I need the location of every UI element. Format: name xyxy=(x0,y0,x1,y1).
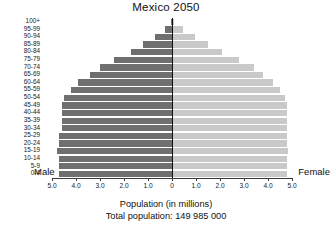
pyramid-row: 70-74 xyxy=(0,64,332,72)
x-axis-tick xyxy=(76,178,77,181)
male-bar xyxy=(62,102,172,108)
x-axis: 5.04.03.02.01.001.02.03.04.05.0 xyxy=(0,178,332,198)
x-axis-tick-label: 5.0 xyxy=(47,182,56,189)
male-bar xyxy=(59,163,172,169)
x-axis-tick xyxy=(172,178,173,181)
female-bar xyxy=(172,41,208,47)
x-axis-tick-label: 3.0 xyxy=(239,182,248,189)
x-axis-tick-label: 1.0 xyxy=(143,182,152,189)
pyramid-row: 55-59 xyxy=(0,86,332,94)
pyramid-row: 50-54 xyxy=(0,94,332,102)
male-bar xyxy=(78,79,172,85)
female-bar xyxy=(172,102,287,108)
pyramid-row: 90-94 xyxy=(0,33,332,41)
male-bar xyxy=(59,133,172,139)
pyramid-row: 95-99 xyxy=(0,26,332,34)
female-bar xyxy=(172,148,288,154)
pyramid-row: 75-79 xyxy=(0,56,332,64)
chart-title: Mexico 2050 xyxy=(0,1,332,13)
pyramid-row: 65-69 xyxy=(0,71,332,79)
x-axis-tick xyxy=(52,178,53,181)
pyramid-row: 85-89 xyxy=(0,41,332,49)
male-bar xyxy=(59,171,172,177)
female-bar xyxy=(172,87,280,93)
pyramid-row: 45-49 xyxy=(0,102,332,110)
female-bar xyxy=(172,140,287,146)
female-bar xyxy=(172,26,183,32)
population-pyramid-chart: Mexico 2050 100+95-9990-9485-8980-8475-7… xyxy=(0,0,332,233)
male-bar xyxy=(71,87,172,93)
female-bar xyxy=(172,72,263,78)
male-bar xyxy=(131,49,172,55)
female-bar xyxy=(172,118,287,124)
x-axis-tick xyxy=(244,178,245,181)
pyramid-row: 30-34 xyxy=(0,125,332,133)
female-bar xyxy=(172,34,195,40)
x-axis-tick xyxy=(100,178,101,181)
female-bar xyxy=(172,171,287,177)
x-axis-tick-label: 1.0 xyxy=(191,182,200,189)
female-bar xyxy=(172,110,287,116)
male-bar xyxy=(100,64,172,70)
x-axis-tick-label: 0 xyxy=(170,182,174,189)
plot-area: 100+95-9990-9485-8980-8475-7970-7465-696… xyxy=(0,18,332,178)
female-bar xyxy=(172,49,222,55)
total-population-label: Total population: 149 985 000 xyxy=(0,211,332,223)
female-bar xyxy=(172,163,287,169)
x-axis-tick xyxy=(124,178,125,181)
female-legend-label: Female xyxy=(298,166,330,177)
female-bar xyxy=(172,57,239,63)
x-axis-tick-label: 4.0 xyxy=(263,182,272,189)
female-bar xyxy=(172,156,287,162)
x-axis-tick xyxy=(292,178,293,181)
pyramid-row: 10-14 xyxy=(0,155,332,163)
center-axis-line xyxy=(172,18,173,179)
x-axis-tick xyxy=(220,178,221,181)
pyramid-row: 20-24 xyxy=(0,140,332,148)
pyramid-row: 100+ xyxy=(0,18,332,26)
male-bar xyxy=(59,156,172,162)
pyramid-row: 15-19 xyxy=(0,147,332,155)
male-bar xyxy=(114,57,172,63)
x-axis-tick xyxy=(148,178,149,181)
male-bar xyxy=(57,148,172,154)
chart-footer: Population (in millions) Total populatio… xyxy=(0,199,332,222)
x-axis-tick xyxy=(268,178,269,181)
male-bar xyxy=(62,110,172,116)
male-bar xyxy=(64,95,172,101)
male-bar xyxy=(62,125,172,131)
female-bar xyxy=(172,79,273,85)
pyramid-row: 80-84 xyxy=(0,48,332,56)
pyramid-row: 35-39 xyxy=(0,117,332,125)
x-axis-tick-label: 2.0 xyxy=(215,182,224,189)
male-bar xyxy=(62,118,172,124)
x-axis-tick-label: 2.0 xyxy=(119,182,128,189)
female-bar xyxy=(172,95,285,101)
x-axis-tick-label: 3.0 xyxy=(95,182,104,189)
x-axis-caption: Population (in millions) xyxy=(0,199,332,211)
female-bar xyxy=(172,133,287,139)
female-bar xyxy=(172,125,287,131)
bar-rows: 100+95-9990-9485-8980-8475-7970-7465-696… xyxy=(0,18,332,178)
male-bar xyxy=(143,41,172,47)
male-bar xyxy=(90,72,172,78)
pyramid-row: 40-44 xyxy=(0,109,332,117)
female-bar xyxy=(172,64,254,70)
male-bar xyxy=(155,34,172,40)
male-legend-label: Male xyxy=(34,166,55,177)
pyramid-row: 60-64 xyxy=(0,79,332,87)
x-axis-tick-label: 5.0 xyxy=(287,182,296,189)
x-axis-tick xyxy=(196,178,197,181)
pyramid-row: 25-29 xyxy=(0,132,332,140)
male-bar xyxy=(59,140,172,146)
x-axis-tick-label: 4.0 xyxy=(71,182,80,189)
